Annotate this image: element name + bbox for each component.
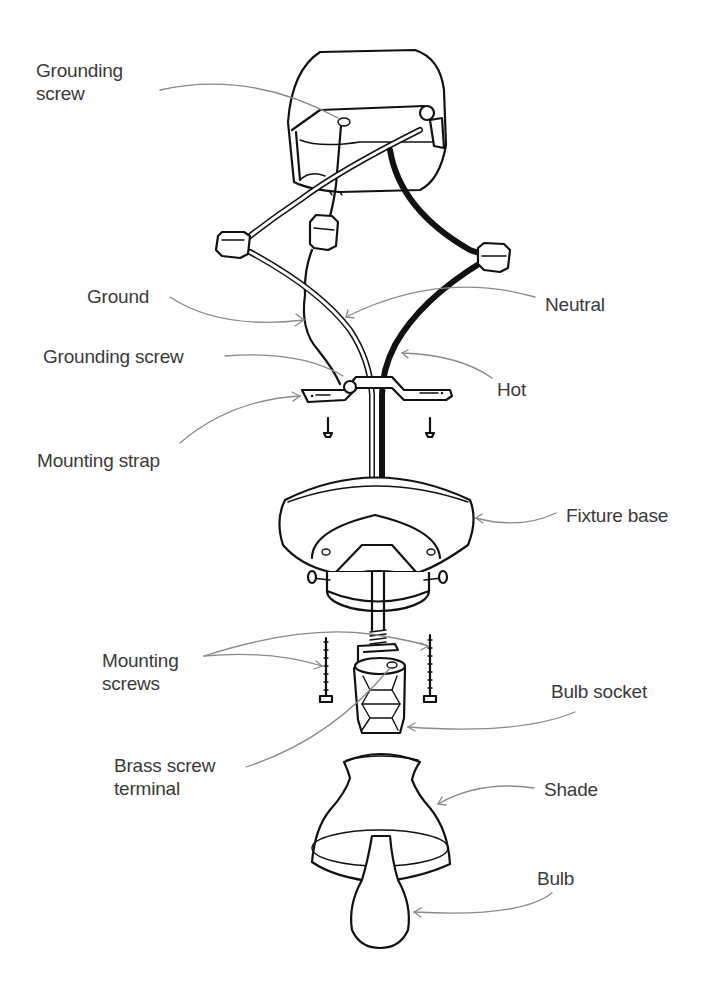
label-bulb-socket: Bulb socket bbox=[551, 680, 647, 703]
label-line: Mounting strap bbox=[37, 449, 160, 472]
leader-bulb bbox=[414, 893, 552, 913]
label-fixture-base: Fixture base bbox=[566, 504, 668, 527]
label-line: Fixture base bbox=[566, 504, 668, 527]
label-grounding-screw-top: Grounding screw bbox=[36, 59, 123, 105]
label-grounding-screw-strap: Grounding screw bbox=[43, 345, 184, 368]
leader-mounting-strap bbox=[180, 396, 300, 443]
label-line: Mounting bbox=[102, 649, 179, 672]
label-line: screw bbox=[36, 82, 123, 105]
wire-nut-right bbox=[478, 243, 510, 272]
label-ground: Ground bbox=[87, 285, 149, 308]
label-shade: Shade bbox=[544, 778, 598, 801]
leader-hot bbox=[402, 353, 492, 378]
junction-box bbox=[288, 50, 446, 195]
hot-wire bbox=[382, 262, 482, 480]
label-line: Ground bbox=[87, 285, 149, 308]
fixture-base bbox=[279, 478, 473, 612]
label-hot: Hot bbox=[497, 378, 526, 401]
leader-shade bbox=[438, 786, 534, 804]
mounting-strap bbox=[302, 377, 452, 402]
label-bulb: Bulb bbox=[537, 867, 574, 890]
wire-nut-center bbox=[310, 215, 338, 250]
grounding-screw-strap bbox=[344, 381, 356, 393]
fixture-illustration bbox=[0, 0, 721, 1001]
label-mounting-strap: Mounting strap bbox=[37, 449, 160, 472]
label-neutral: Neutral bbox=[545, 293, 605, 316]
label-mounting-screws: Mounting screws bbox=[102, 649, 179, 695]
label-line: Brass screw bbox=[114, 754, 215, 777]
label-line: screws bbox=[102, 672, 179, 695]
label-line: Hot bbox=[497, 378, 526, 401]
label-line: Bulb bbox=[537, 867, 574, 890]
light-fixture-diagram: Grounding screw Ground Neutral Grounding… bbox=[0, 0, 721, 1001]
leader-mounting-screw-left bbox=[204, 654, 322, 666]
label-brass-screw-terminal: Brass screw terminal bbox=[114, 754, 215, 800]
label-line: Grounding bbox=[36, 59, 123, 82]
label-line: terminal bbox=[114, 777, 215, 800]
leader-bulb-socket bbox=[408, 712, 575, 729]
bulb-socket bbox=[354, 644, 405, 733]
label-line: Bulb socket bbox=[551, 680, 647, 703]
label-line: Grounding screw bbox=[43, 345, 184, 368]
label-line: Neutral bbox=[545, 293, 605, 316]
label-line: Shade bbox=[544, 778, 598, 801]
leader-ground bbox=[170, 297, 304, 322]
wire-nut-left bbox=[216, 232, 250, 258]
leader-fixture-base bbox=[476, 513, 556, 523]
